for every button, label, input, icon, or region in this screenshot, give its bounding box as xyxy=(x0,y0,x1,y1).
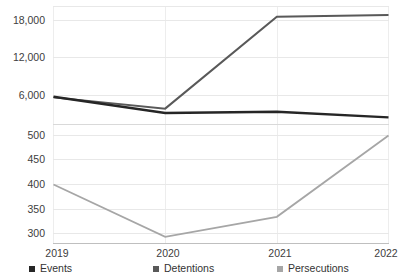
lower-panel-gridlines xyxy=(53,136,389,234)
y-tick-300: 300 xyxy=(27,227,45,239)
data-series-group xyxy=(54,15,389,237)
series-line-detentions xyxy=(54,15,389,109)
legend-label-events[interactable]: Events xyxy=(40,262,72,274)
x-axis-tick-labels: 2019 2020 2021 2022 xyxy=(45,247,398,259)
series-line-persecutions xyxy=(54,136,389,237)
legend-swatch-persecutions xyxy=(277,266,283,272)
x-tick-2021: 2021 xyxy=(268,247,292,259)
series-line-events xyxy=(54,97,389,118)
y-tick-12000: 12,000 xyxy=(13,51,45,63)
legend-swatch-events xyxy=(29,266,35,272)
chart-legend: Events Detentions Persecutions xyxy=(29,262,349,274)
x-tick-2020: 2020 xyxy=(156,247,180,259)
y-tick-500: 500 xyxy=(27,129,45,141)
y-tick-400: 400 xyxy=(27,178,45,190)
x-tick-2022: 2022 xyxy=(374,247,398,259)
upper-y-axis-tick-labels: 18,000 12,000 6,000 xyxy=(13,14,45,101)
legend-label-detentions[interactable]: Detentions xyxy=(164,262,214,274)
broken-axis-line-chart: 18,000 12,000 6,000 500 450 400 350 300 … xyxy=(0,0,407,279)
lower-y-axis-tick-labels: 500 450 400 350 300 xyxy=(27,129,45,239)
y-tick-18000: 18,000 xyxy=(13,14,45,26)
x-tick-2019: 2019 xyxy=(45,247,69,259)
y-tick-6000: 6,000 xyxy=(19,89,45,101)
legend-swatch-detentions xyxy=(153,266,159,272)
upper-panel-gridlines xyxy=(53,7,389,96)
legend-label-persecutions[interactable]: Persecutions xyxy=(288,262,349,274)
chart-container: 18,000 12,000 6,000 500 450 400 350 300 … xyxy=(0,0,407,279)
y-tick-450: 450 xyxy=(27,153,45,165)
y-tick-350: 350 xyxy=(27,203,45,215)
